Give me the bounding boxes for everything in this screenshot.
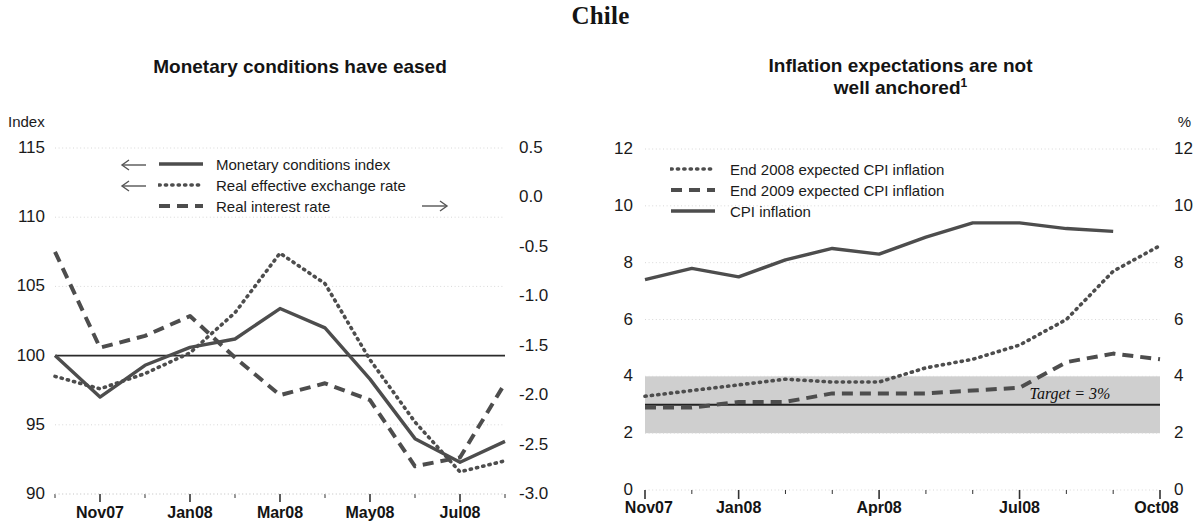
left-chart-x-tick: Mar08: [257, 504, 303, 522]
left-chart-y-right-tick: -1.0: [519, 286, 548, 306]
right-chart-title-line1: Inflation expectations are not: [769, 55, 1033, 76]
right-chart-y-right-tick: 4: [1174, 366, 1183, 386]
left-chart-y-tick: 105: [17, 276, 45, 296]
left-chart-y-right-tick: 0.5: [519, 138, 543, 158]
right-chart-y-tick: 10: [614, 196, 633, 216]
left-chart-x-tick: Nov07: [76, 504, 124, 522]
right-chart-x-tick: Apr08: [856, 499, 901, 517]
right-chart-x-tick: Jan08: [716, 499, 761, 517]
footnote-marker: 1: [961, 76, 968, 90]
right-chart-panel: Inflation expectations are not well anch…: [600, 0, 1201, 517]
legend-label: Real effective exchange rate: [216, 177, 406, 194]
left-chart-y-right-tick: 0.0: [519, 187, 543, 207]
arrow-right-icon: [420, 197, 450, 215]
legend-key-solid: [158, 155, 204, 173]
left-chart-y-right-tick: -2.0: [519, 385, 548, 405]
right-chart-title: Inflation expectations are not well anch…: [600, 55, 1201, 99]
left-chart-y-tick: 95: [26, 415, 45, 435]
right-chart-y-right-tick: 6: [1174, 310, 1183, 330]
right-chart-y-tick: 0: [624, 480, 633, 500]
right-chart-y-right-tick: 12: [1174, 139, 1193, 159]
left-chart-y-right-tick: -3.0: [519, 484, 548, 504]
right-chart-y-tick: 4: [624, 366, 633, 386]
legend-key-dotted: [670, 160, 716, 178]
legend-key-dashed: [158, 197, 204, 215]
target-annotation: Target = 3%: [1030, 385, 1111, 403]
left-chart-x-tick: May08: [346, 504, 395, 522]
left-chart-panel: Monetary conditions have eased Index Mon…: [0, 0, 600, 517]
right-chart-y-tick: 2: [624, 423, 633, 443]
left-chart-title: Monetary conditions have eased: [0, 56, 600, 78]
left-chart-y-right-tick: -1.5: [519, 336, 548, 356]
left-chart-y-unit: Index: [8, 113, 45, 130]
left-chart-y-right-tick: -0.5: [519, 237, 548, 257]
left-chart-x-tick: Jan08: [167, 504, 212, 522]
left-chart-y-tick: 100: [17, 346, 45, 366]
legend-label: Monetary conditions index: [216, 156, 390, 173]
legend-key-dashed: [670, 181, 716, 199]
left-chart-y-tick: 90: [26, 484, 45, 504]
right-chart-x-tick: Oct08: [1134, 499, 1178, 517]
left-chart-y-right-tick: -2.5: [519, 435, 548, 455]
legend-label: End 2009 expected CPI inflation: [730, 182, 944, 199]
legend-label: End 2008 expected CPI inflation: [730, 161, 944, 178]
legend-key-solid: [670, 202, 716, 220]
right-chart-x-tick: Nov07: [625, 499, 673, 517]
right-chart-y-tick: 6: [624, 310, 633, 330]
right-chart-y-tick: 8: [624, 253, 633, 273]
legend-key-dotted: [158, 176, 204, 194]
left-chart-y-tick: 110: [18, 207, 45, 227]
right-chart-title-line2: well anchored: [834, 77, 961, 98]
right-chart-y-unit: %: [1178, 113, 1191, 130]
left-chart-x-tick: Jul08: [440, 504, 481, 522]
right-chart-y-right-tick: 0: [1174, 480, 1183, 500]
arrow-left-icon: [120, 177, 150, 195]
left-chart-y-tick: 115: [18, 138, 45, 158]
right-chart-y-right-tick: 2: [1174, 423, 1183, 443]
right-chart-plot: [645, 149, 1160, 490]
arrow-left-icon: [120, 156, 150, 174]
right-chart-x-tick: Jul08: [999, 499, 1040, 517]
right-chart-y-right-tick: 10: [1174, 196, 1193, 216]
legend-label: Real interest rate: [216, 198, 330, 215]
right-chart-y-right-tick: 8: [1174, 253, 1183, 273]
legend-label: CPI inflation: [730, 203, 811, 220]
right-chart-y-tick: 12: [614, 139, 633, 159]
